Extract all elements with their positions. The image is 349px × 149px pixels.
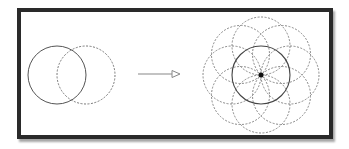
solid-circle — [28, 46, 86, 104]
center-dot — [259, 73, 264, 78]
flower-of-life-pattern — [203, 17, 319, 133]
arrow-right-icon — [138, 71, 180, 78]
overlapping-circles — [28, 46, 115, 104]
diagram-canvas — [0, 0, 349, 149]
arrow-head — [172, 71, 180, 78]
